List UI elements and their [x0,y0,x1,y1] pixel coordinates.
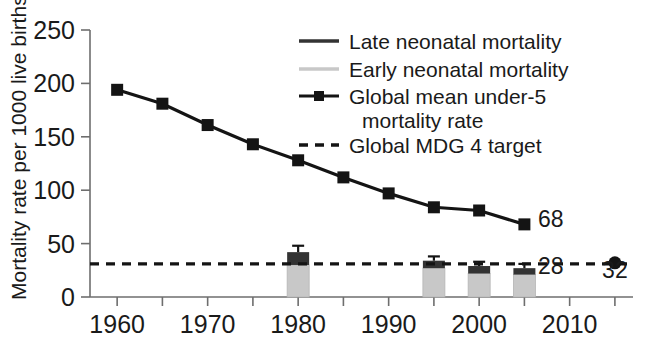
y-axis: 050100150200250 [33,16,90,311]
x-tick-label: 1960 [89,310,145,338]
legend-label-under5-line2: mortality rate [362,109,483,132]
x-tick-label-group: 196019701980199020002010 [89,310,597,338]
bar-segment-early-neonatal [423,268,445,297]
under5-marker [473,204,485,216]
under5-marker [111,84,123,96]
bar-series-group [287,252,535,297]
legend-label-under5-line1: Global mean under-5 [349,85,546,108]
x-tick-label: 1990 [361,310,417,338]
chart-svg: Mortality rate per 1000 live births 0501… [0,0,645,340]
legend: Late neonatal mortality Early neonatal m… [299,30,569,157]
legend-label-early-neonatal: Early neonatal mortality [349,58,569,81]
under5-marker [337,171,349,183]
x-tick-label: 1970 [180,310,236,338]
legend-label-late-neonatal: Late neonatal mortality [349,30,562,53]
y-tick-label: 150 [33,123,75,151]
x-axis: 196019701980199020002010 [89,297,633,338]
y-axis-title: Mortality rate per 1000 live births [7,0,30,300]
x-tick-group [117,297,615,306]
y-tick-label: 100 [33,176,75,204]
y-tick-label: 50 [47,230,75,258]
chart-container: Mortality rate per 1000 live births 0501… [0,0,645,340]
x-tick-label: 2000 [451,310,507,338]
under5-marker [202,119,214,131]
x-tick-label: 2010 [542,310,598,338]
bar-segment-late-neonatal [513,268,535,274]
legend-swatch-under5-marker [314,91,324,101]
x-tick-label: 1980 [270,310,326,338]
bar-segment-early-neonatal [513,275,535,297]
y-tick-label: 0 [61,283,75,311]
under5-marker [518,218,530,230]
y-tick-group [81,30,90,297]
data-label: 32 [602,257,628,283]
y-tick-label: 250 [33,16,75,44]
bar-segment-late-neonatal [468,266,490,273]
data-label: 68 [538,206,564,232]
bar-segment-early-neonatal [287,265,309,297]
annotation-group: 682832 [538,206,628,283]
legend-label-mdg-target: Global MDG 4 target [349,134,542,157]
bar-segment-early-neonatal [468,274,490,297]
under5-marker [428,201,440,213]
under5-marker [292,154,304,166]
data-label: 28 [538,253,564,279]
under5-marker [247,138,259,150]
y-tick-label: 200 [33,69,75,97]
y-tick-label-group: 050100150200250 [33,16,75,311]
under5-marker [383,187,395,199]
under5-marker [156,98,168,110]
